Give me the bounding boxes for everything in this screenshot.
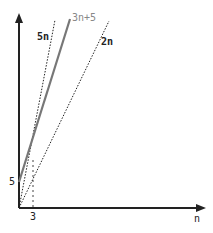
- line-2n: [19, 21, 109, 208]
- y-axis-arrow-icon: [15, 13, 23, 23]
- x-axis-arrow-icon: [196, 204, 206, 212]
- label-2n: 2n: [101, 36, 113, 47]
- line-5n: [19, 20, 55, 208]
- label-5n: 5n: [37, 31, 49, 42]
- x-tick-label-3: 3: [30, 211, 36, 222]
- line-3n-plus-5: [19, 19, 70, 182]
- x-axis-label-n: n: [194, 213, 200, 224]
- label-3n-plus-5: 3n+5: [72, 12, 96, 23]
- diagram-canvas: 5n 3n+5 2n 5 3 n: [0, 0, 213, 233]
- y-tick-label-5: 5: [9, 176, 15, 187]
